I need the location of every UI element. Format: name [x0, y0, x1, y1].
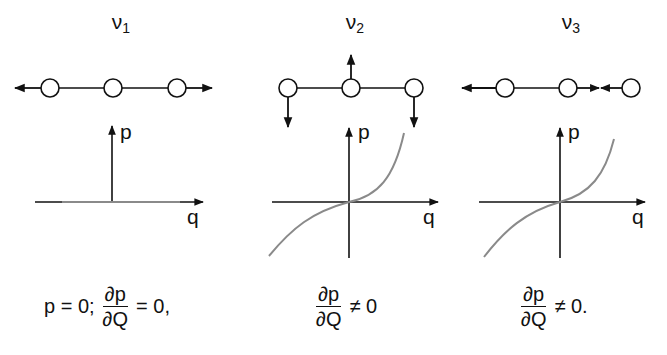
equation-v3: ∂p ∂Q ≠ 0.: [519, 283, 588, 330]
panel-title-v1: ν1: [112, 10, 130, 36]
fraction: ∂p ∂Q: [314, 283, 343, 330]
atom-circle: [279, 79, 297, 97]
p-curve: [484, 139, 614, 257]
fraction-numerator: ∂p: [316, 283, 341, 307]
fraction-numerator: ∂p: [103, 283, 128, 307]
molecule-v1: [15, 79, 212, 97]
panel-title-v2: ν2: [346, 10, 364, 36]
graph-v2: [269, 128, 438, 258]
equation-v1: p = 0; ∂p ∂Q = 0,: [44, 283, 170, 330]
equation-suffix: ≠ 0.: [554, 295, 587, 318]
equation-suffix: ≠ 0: [349, 295, 377, 318]
axis-label-p: p: [358, 120, 370, 144]
atom-circle: [41, 79, 59, 97]
axis-label-p: p: [120, 120, 132, 144]
atom-circle: [496, 79, 514, 97]
molecule-v3: [462, 79, 640, 97]
atom-circle: [104, 79, 122, 97]
atom-circle: [559, 79, 577, 97]
p-curve: [269, 133, 404, 256]
equation-prefix: p = 0;: [44, 295, 95, 318]
fraction: ∂p ∂Q: [101, 283, 130, 330]
axis-label-q: q: [632, 205, 644, 229]
atom-circle: [168, 79, 186, 97]
molecule-v2: [279, 55, 423, 127]
atom-circle: [342, 79, 360, 97]
fraction: ∂p ∂Q: [519, 283, 548, 330]
fraction-denominator: ∂Q: [101, 307, 130, 330]
fraction-denominator: ∂Q: [314, 307, 343, 330]
panel-title-v3: ν3: [562, 10, 580, 36]
fraction-numerator: ∂p: [521, 283, 546, 307]
graph-v1: [35, 126, 203, 202]
atom-circle: [405, 79, 423, 97]
axis-label-q: q: [423, 205, 435, 229]
axis-label-p: p: [568, 120, 580, 144]
graph-v3: [479, 128, 645, 258]
equation-v2: ∂p ∂Q ≠ 0: [314, 283, 377, 330]
axis-label-q: q: [187, 205, 199, 229]
equation-suffix: = 0,: [136, 295, 170, 318]
atom-circle: [622, 79, 640, 97]
fraction-denominator: ∂Q: [519, 307, 548, 330]
